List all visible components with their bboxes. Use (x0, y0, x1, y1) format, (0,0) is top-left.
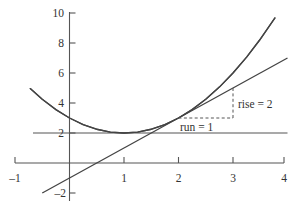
y-tick-label-4: 4 (58, 97, 64, 109)
y-ticks-group (70, 13, 76, 193)
x-tick-label-1: 1 (121, 172, 127, 184)
x-ticks-group (15, 157, 284, 163)
y-tick-label--2: –2 (54, 187, 67, 199)
y-tick-label-2: 2 (58, 127, 64, 139)
y-tick-label-6: 6 (58, 67, 64, 79)
tangent-line (42, 58, 287, 193)
x-tick-label--1: –1 (8, 172, 21, 184)
x-tick-label-4: 4 (281, 172, 287, 184)
run-annotation-label: run = 1 (180, 121, 214, 133)
x-tick-label-2: 2 (176, 172, 182, 184)
chart-canvas: –1 1 2 3 4 10 8 6 4 2 –2 rise = 2 run = … (0, 0, 294, 213)
rise-annotation-label: rise = 2 (238, 98, 273, 110)
parabola-curve-smooth (30, 18, 275, 133)
x-tick-label-3: 3 (230, 172, 236, 184)
y-tick-labels: 10 8 6 4 2 –2 (53, 7, 67, 199)
y-tick-label-10: 10 (53, 7, 65, 19)
y-tick-label-8: 8 (58, 37, 64, 49)
x-tick-labels: –1 1 2 3 4 (8, 172, 287, 184)
chart-figure: –1 1 2 3 4 10 8 6 4 2 –2 rise = 2 run = … (0, 0, 294, 213)
